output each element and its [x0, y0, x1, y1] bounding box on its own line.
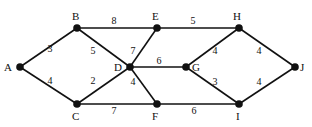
edge-c-d	[77, 67, 130, 104]
node-label-e: E	[152, 10, 159, 22]
edge-weight-b-d: 5	[91, 45, 96, 56]
edge-weight-c-d: 2	[91, 75, 96, 86]
nodes-layer	[16, 24, 299, 108]
edge-i-j	[239, 67, 295, 104]
node-label-f: F	[152, 110, 158, 122]
node-j	[291, 63, 299, 71]
node-label-h: H	[233, 10, 241, 22]
edge-weight-g-i: 3	[213, 76, 218, 87]
edge-h-j	[239, 28, 295, 67]
node-g	[182, 63, 190, 71]
edge-weight-f-i: 6	[192, 105, 197, 116]
node-d	[126, 63, 134, 71]
node-i	[235, 100, 243, 108]
node-label-b: B	[72, 10, 79, 22]
edge-weight-a-b: 3	[48, 43, 53, 54]
edge-weight-g-h: 4	[213, 45, 218, 56]
edge-weight-d-g: 6	[157, 55, 162, 66]
node-label-d: D	[114, 61, 122, 73]
node-label-c: C	[72, 110, 79, 122]
edge-weight-b-e: 8	[112, 15, 117, 26]
node-f	[153, 100, 161, 108]
edges-layer	[20, 28, 295, 104]
node-label-g: G	[192, 61, 200, 73]
node-e	[153, 24, 161, 32]
node-label-a: A	[4, 61, 12, 73]
edge-weight-h-j: 4	[257, 45, 262, 56]
edge-weight-c-f: 7	[112, 105, 117, 116]
node-b	[73, 24, 81, 32]
node-label-i: I	[236, 110, 240, 122]
edge-weight-a-c: 4	[48, 75, 53, 86]
node-a	[16, 63, 24, 71]
node-h	[235, 24, 243, 32]
edge-weight-d-e: 7	[131, 45, 136, 56]
edge-weight-i-j: 4	[257, 76, 262, 87]
edge-weight-d-f: 4	[131, 76, 136, 87]
edge-weight-e-h: 5	[191, 15, 196, 26]
node-c	[73, 100, 81, 108]
edge-b-d	[77, 28, 130, 67]
node-label-j: J	[300, 61, 305, 73]
weighted-graph-diagram: 348527764543644 ABCDEFGHIJ	[0, 0, 312, 127]
